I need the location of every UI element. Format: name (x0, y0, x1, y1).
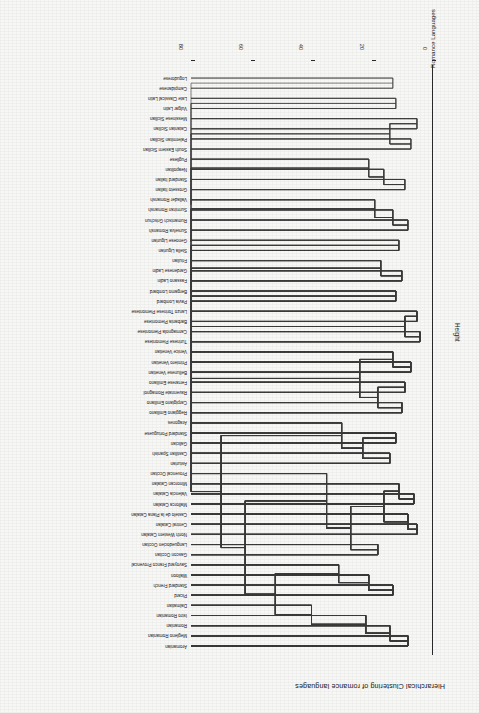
dendrogram-link (381, 268, 402, 276)
dendrogram-link (191, 545, 378, 550)
dendrogram-link (191, 220, 408, 225)
dendrogram-link (191, 529, 417, 534)
dendrogram-link (191, 144, 411, 149)
dendrogram-link (191, 605, 312, 615)
dendrogram-link (191, 626, 390, 634)
dendrogram-link (191, 296, 396, 338)
dendrogram-link (191, 565, 339, 574)
dendrogram-link (351, 528, 378, 550)
dendrogram-link (191, 245, 399, 274)
dendrogram-link (191, 575, 369, 583)
dendrogram-link (312, 615, 366, 625)
dendrogram-link (191, 276, 402, 281)
dendrogram-link (191, 316, 417, 321)
dendrogram-link (191, 438, 396, 443)
dendrogram-link (191, 641, 408, 646)
dendrogram-link (191, 499, 414, 504)
dendrogram-link (191, 524, 417, 529)
dendrogram-link (191, 327, 405, 381)
dendrogram-link (191, 337, 420, 342)
plot-area: Hierarchical Clustering of romance langu… (0, 0, 479, 713)
dendrogram-link (191, 337, 420, 342)
dendrogram-link (191, 575, 369, 583)
dendrogram-link (191, 337, 420, 342)
dendrogram-link (191, 545, 378, 550)
dendrogram-link (191, 550, 378, 555)
dendrogram-link (191, 514, 408, 522)
dendrogram-link (191, 311, 417, 316)
dendrogram-link (408, 522, 417, 530)
dendrogram-link (393, 359, 411, 367)
dendrogram-link (191, 245, 399, 250)
dendrogram-link (369, 583, 393, 591)
dendrogram-link (191, 626, 390, 634)
dendrogram-link (191, 524, 417, 529)
dendrogram-link (191, 403, 402, 408)
dendrogram-link (191, 337, 420, 342)
dendrogram-link (191, 565, 339, 574)
dendrogram-link (393, 218, 408, 226)
dendrogram-link (191, 626, 390, 634)
dendrogram-link (191, 494, 414, 499)
dendrogram-link (191, 545, 378, 550)
dendrogram-link (191, 529, 417, 534)
dendrogram-link (191, 98, 396, 103)
dendrogram-link (191, 626, 390, 634)
dendrogram-link (221, 492, 245, 548)
dendrogram-link (191, 514, 408, 522)
dendrogram-link (191, 524, 417, 529)
dendrogram-link (191, 626, 390, 634)
dendrogram-link (191, 387, 405, 392)
dendrogram-link (191, 529, 417, 534)
dendrogram-link (191, 403, 402, 408)
dendrogram-link (191, 590, 393, 595)
dendrogram-link (351, 507, 384, 529)
dendrogram-link (191, 210, 393, 218)
dendrogram-link (191, 362, 411, 367)
dendrogram-link (191, 616, 366, 625)
dendrogram-link (191, 524, 417, 529)
dendrogram-link (381, 268, 402, 276)
dendrogram-link (191, 494, 414, 499)
dendrogram-link (275, 574, 338, 595)
dendrogram-link (191, 636, 408, 641)
dendrogram-link (191, 585, 393, 590)
dendrogram-link (191, 240, 399, 245)
dendrogram-link (191, 316, 417, 321)
dendrogram-link (191, 585, 393, 590)
dendrogram-link (191, 575, 369, 583)
dendrogram-link (275, 594, 311, 615)
dendrogram-link (191, 403, 402, 408)
dendrogram-link (191, 316, 417, 321)
dendrogram-link (369, 583, 393, 591)
dendrogram-link (399, 491, 414, 499)
dendrogram-link (275, 594, 311, 615)
dendrogram-link (191, 550, 378, 555)
dendrogram-link (191, 209, 375, 242)
dendrogram-link (191, 626, 390, 634)
dendrogram-link (191, 382, 405, 387)
dendrogram-link (191, 291, 396, 296)
dendrogram-link (191, 291, 396, 296)
dendrogram-link (191, 378, 360, 435)
dendrogram-link (191, 545, 378, 550)
dendrogram-link (351, 507, 384, 529)
dendrogram-link (191, 225, 408, 230)
dendrogram-link (191, 438, 396, 443)
dendrogram-link (191, 311, 417, 316)
rotated-plot-container: Hierarchical Clustering of romance langu… (0, 0, 479, 713)
dendrogram-link (275, 574, 338, 595)
dendrogram-link (351, 528, 378, 550)
dendrogram-link (191, 185, 405, 190)
dendrogram-link (191, 327, 405, 381)
dendrogram-link (191, 616, 366, 625)
dendrogram-link (191, 423, 342, 436)
dendrogram-link (191, 499, 414, 504)
dendrogram-link (191, 98, 396, 103)
dendrogram-link (408, 522, 417, 530)
dendrogram-link (191, 565, 339, 574)
dendrogram-link (191, 616, 366, 625)
dendrogram-link (191, 124, 417, 129)
dendrogram-link (342, 436, 363, 449)
dendrogram-link (191, 276, 402, 281)
